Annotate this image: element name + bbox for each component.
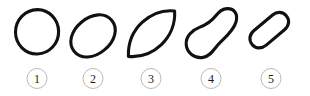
shape-drawing-ellipse bbox=[62, 0, 124, 66]
shape-label-2: 2 bbox=[90, 73, 96, 85]
shape-label-badge-1: 1 bbox=[27, 68, 48, 89]
shape-label-1: 1 bbox=[34, 73, 40, 85]
shape-item-1: 1 bbox=[6, 0, 68, 96]
shape-drawing-stadium-bar bbox=[240, 0, 302, 66]
shape-label-5: 5 bbox=[268, 73, 274, 85]
shape-drawing-circle bbox=[6, 0, 68, 66]
shape-item-2: 2 bbox=[62, 0, 124, 96]
shape-drawing-lens-leaf bbox=[120, 0, 182, 66]
shape-label-3: 3 bbox=[148, 73, 154, 85]
shape-label-badge-4: 4 bbox=[201, 68, 222, 89]
shape-item-4: 4 bbox=[180, 0, 242, 96]
shape-item-5: 5 bbox=[240, 0, 302, 96]
shape-label-badge-3: 3 bbox=[141, 68, 162, 89]
shape-label-badge-5: 5 bbox=[261, 68, 282, 89]
shape-item-3: 3 bbox=[120, 0, 182, 96]
shape-label-4: 4 bbox=[208, 73, 214, 85]
shape-drawing-pear-gourd bbox=[180, 0, 242, 66]
shape-figure: 1 2 3 4 bbox=[0, 0, 310, 96]
shape-label-badge-2: 2 bbox=[83, 68, 104, 89]
